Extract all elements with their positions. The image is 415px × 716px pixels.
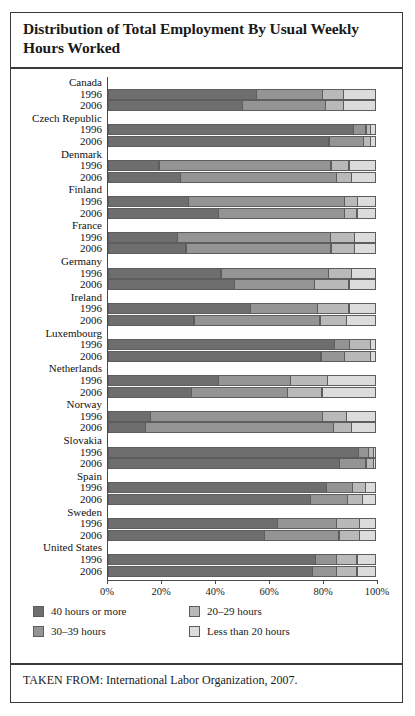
bar-segment[interactable] — [108, 339, 335, 350]
stacked-bar[interactable] — [108, 136, 378, 147]
stacked-bar[interactable] — [108, 530, 378, 541]
stacked-bar[interactable] — [108, 303, 378, 314]
bar-segment[interactable] — [344, 208, 358, 219]
stacked-bar[interactable] — [108, 387, 378, 398]
stacked-bar[interactable] — [108, 411, 378, 422]
bar-segment[interactable] — [108, 243, 186, 254]
stacked-bar[interactable] — [108, 494, 378, 505]
bar-segment[interactable] — [218, 208, 345, 219]
bar-segment[interactable] — [310, 494, 348, 505]
stacked-bar[interactable] — [108, 315, 378, 326]
bar-segment[interactable] — [362, 494, 376, 505]
bar-segment[interactable] — [357, 196, 376, 207]
stacked-bar[interactable] — [108, 124, 378, 135]
bar-segment[interactable] — [314, 279, 349, 290]
stacked-bar[interactable] — [108, 279, 378, 290]
stacked-bar[interactable] — [108, 482, 378, 493]
bar-segment[interactable] — [287, 387, 322, 398]
bar-segment[interactable] — [218, 375, 291, 386]
bar-segment[interactable] — [108, 530, 265, 541]
legend-item[interactable]: 30–39 hours — [33, 625, 106, 637]
bar-segment[interactable] — [108, 351, 321, 362]
stacked-bar[interactable] — [108, 339, 378, 350]
bar-segment[interactable] — [344, 351, 371, 362]
bar-segment[interactable] — [373, 447, 376, 458]
bar-segment[interactable] — [357, 566, 376, 577]
bar-segment[interactable] — [108, 411, 151, 422]
bar-segment[interactable] — [108, 89, 257, 100]
bar-segment[interactable] — [346, 411, 376, 422]
stacked-bar[interactable] — [108, 208, 378, 219]
bar-segment[interactable] — [354, 243, 376, 254]
bar-segment[interactable] — [108, 172, 181, 183]
bar-segment[interactable] — [359, 530, 375, 541]
bar-segment[interactable] — [221, 268, 329, 279]
bar-segment[interactable] — [108, 232, 178, 243]
bar-segment[interactable] — [329, 136, 364, 147]
bar-segment[interactable] — [349, 279, 376, 290]
bar-segment[interactable] — [322, 411, 346, 422]
bar-segment[interactable] — [194, 315, 321, 326]
bar-segment[interactable] — [370, 351, 375, 362]
bar-segment[interactable] — [180, 172, 337, 183]
stacked-bar[interactable] — [108, 375, 378, 386]
bar-segment[interactable] — [331, 160, 350, 171]
bar-segment[interactable] — [357, 554, 376, 565]
bar-segment[interactable] — [108, 315, 194, 326]
bar-segment[interactable] — [339, 530, 361, 541]
bar-segment[interactable] — [108, 268, 221, 279]
bar-segment[interactable] — [357, 208, 376, 219]
bar-segment[interactable] — [346, 315, 376, 326]
stacked-bar[interactable] — [108, 447, 378, 458]
bar-segment[interactable] — [315, 554, 337, 565]
bar-segment[interactable] — [256, 89, 324, 100]
bar-segment[interactable] — [336, 554, 358, 565]
bar-segment[interactable] — [108, 136, 329, 147]
stacked-bar[interactable] — [108, 554, 378, 565]
bar-segment[interactable] — [108, 375, 219, 386]
bar-segment[interactable] — [108, 494, 311, 505]
stacked-bar[interactable] — [108, 458, 378, 469]
bar-segment[interactable] — [108, 303, 251, 314]
stacked-bar[interactable] — [108, 566, 378, 577]
bar-segment[interactable] — [108, 518, 278, 529]
stacked-bar[interactable] — [108, 232, 378, 243]
bar-segment[interactable] — [370, 124, 375, 135]
bar-segment[interactable] — [343, 100, 375, 111]
bar-segment[interactable] — [108, 387, 192, 398]
stacked-bar[interactable] — [108, 422, 378, 433]
stacked-bar[interactable] — [108, 172, 378, 183]
stacked-bar[interactable] — [108, 268, 378, 279]
bar-segment[interactable] — [353, 124, 367, 135]
bar-segment[interactable] — [108, 124, 354, 135]
bar-segment[interactable] — [191, 387, 288, 398]
bar-segment[interactable] — [108, 458, 340, 469]
bar-segment[interactable] — [351, 422, 375, 433]
bar-segment[interactable] — [373, 458, 376, 469]
bar-segment[interactable] — [325, 100, 344, 111]
bar-segment[interactable] — [108, 100, 243, 111]
bar-segment[interactable] — [349, 303, 376, 314]
bar-segment[interactable] — [108, 447, 359, 458]
bar-segment[interactable] — [347, 494, 363, 505]
bar-segment[interactable] — [333, 422, 352, 433]
bar-segment[interactable] — [277, 518, 336, 529]
bar-segment[interactable] — [108, 482, 327, 493]
bar-segment[interactable] — [186, 243, 332, 254]
stacked-bar[interactable] — [108, 160, 378, 171]
bar-segment[interactable] — [351, 172, 375, 183]
bar-segment[interactable] — [352, 482, 366, 493]
stacked-bar[interactable] — [108, 243, 378, 254]
bar-segment[interactable] — [349, 160, 376, 171]
bar-segment[interactable] — [339, 458, 366, 469]
bar-segment[interactable] — [250, 303, 318, 314]
bar-segment[interactable] — [264, 530, 340, 541]
legend-item[interactable]: 40 hours or more — [33, 605, 126, 617]
bar-segment[interactable] — [312, 566, 336, 577]
bar-segment[interactable] — [370, 136, 375, 147]
bar-segment[interactable] — [108, 554, 316, 565]
bar-segment[interactable] — [290, 375, 328, 386]
stacked-bar[interactable] — [108, 89, 378, 100]
bar-segment[interactable] — [354, 232, 376, 243]
bar-segment[interactable] — [108, 160, 159, 171]
